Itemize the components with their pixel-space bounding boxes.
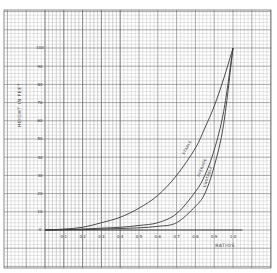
x-tick-label: 0.2 <box>79 234 86 239</box>
y-tick-label: 70 <box>37 100 43 105</box>
y-axis-title: HEIGHT IN FEET <box>17 83 22 127</box>
y-tick-label: 100 <box>36 45 44 50</box>
x-tick-label: 0.5 <box>136 234 143 239</box>
x-tick-label: 0.4 <box>117 234 124 239</box>
y-tick-label: 90 <box>37 64 43 69</box>
x-tick-label: 0.1 <box>61 234 68 239</box>
x-tick-label: 1.0 <box>230 234 237 239</box>
x-tick-label: 0.9 <box>211 234 218 239</box>
y-tick-label: 30 <box>37 173 43 178</box>
y-tick-label: 0 <box>39 227 42 232</box>
y-tick-label: 40 <box>37 155 43 160</box>
x-tick-label: 0.8 <box>192 234 199 239</box>
x-tick-label: 0.7 <box>173 234 180 239</box>
x-tick-label: 0.3 <box>98 234 105 239</box>
chart: 0102030405060708090100 0.10.20.30.40.50.… <box>0 0 277 273</box>
x-tick-label: 0.6 <box>155 234 162 239</box>
x-axis-title: RATIOS <box>215 243 235 248</box>
y-tick-label: 20 <box>37 191 43 196</box>
y-tick-label: 80 <box>37 82 43 87</box>
y-tick-label: 10 <box>37 209 43 214</box>
graph-paper-grid <box>4 10 271 268</box>
y-tick-label: 60 <box>37 118 43 123</box>
y-tick-label: 50 <box>37 136 43 141</box>
